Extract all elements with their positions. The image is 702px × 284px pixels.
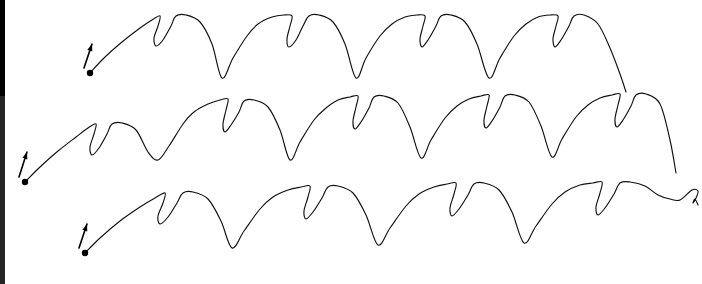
row-1-start-marker	[84, 44, 93, 76]
curve-row-group-3	[79, 181, 698, 256]
row-3-start-arrow-head	[82, 224, 87, 231]
row-3-start-dot	[82, 250, 88, 256]
row-2-start-arrow-head	[22, 152, 27, 159]
curve-row-group-1	[84, 14, 626, 92]
row-3-start-marker	[79, 224, 88, 256]
row-2-start-dot	[22, 179, 28, 185]
row-2-start-marker	[19, 152, 28, 185]
row-1-start-arrow-head	[87, 44, 92, 51]
curve-row-2	[25, 93, 676, 182]
curve-drawing	[0, 0, 702, 284]
curve-row-group-2	[19, 93, 676, 185]
curve-row-1	[90, 14, 626, 92]
row-1-start-dot	[87, 70, 93, 76]
figure-canvas	[0, 0, 702, 284]
curve-row-3	[85, 181, 698, 253]
